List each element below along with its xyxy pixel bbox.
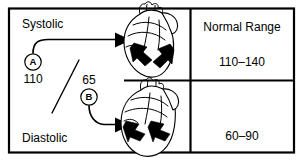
fraction-slash (52, 60, 79, 113)
blood-pressure-diagram: Systolic Diastolic A 110 65 B (0, 0, 303, 160)
normal-range-header: Normal Range (203, 20, 281, 34)
marker-b: B (81, 89, 97, 105)
diastolic-normal-range: 60–90 (225, 129, 259, 143)
systolic-normal-range: 110–140 (219, 55, 265, 69)
systolic-label: Systolic (22, 17, 63, 31)
marker-a-letter: A (30, 56, 37, 67)
heart-relaxed-icon (121, 78, 179, 157)
systolic-reading: 110 (23, 72, 42, 86)
pointer-arrow-systolic (33, 33, 131, 54)
marker-a: A (25, 54, 41, 70)
diastolic-reading: 65 (82, 73, 96, 87)
marker-b-letter: B (86, 91, 93, 102)
diastolic-label: Diastolic (22, 131, 67, 145)
heart-contracted-icon (124, 2, 178, 77)
